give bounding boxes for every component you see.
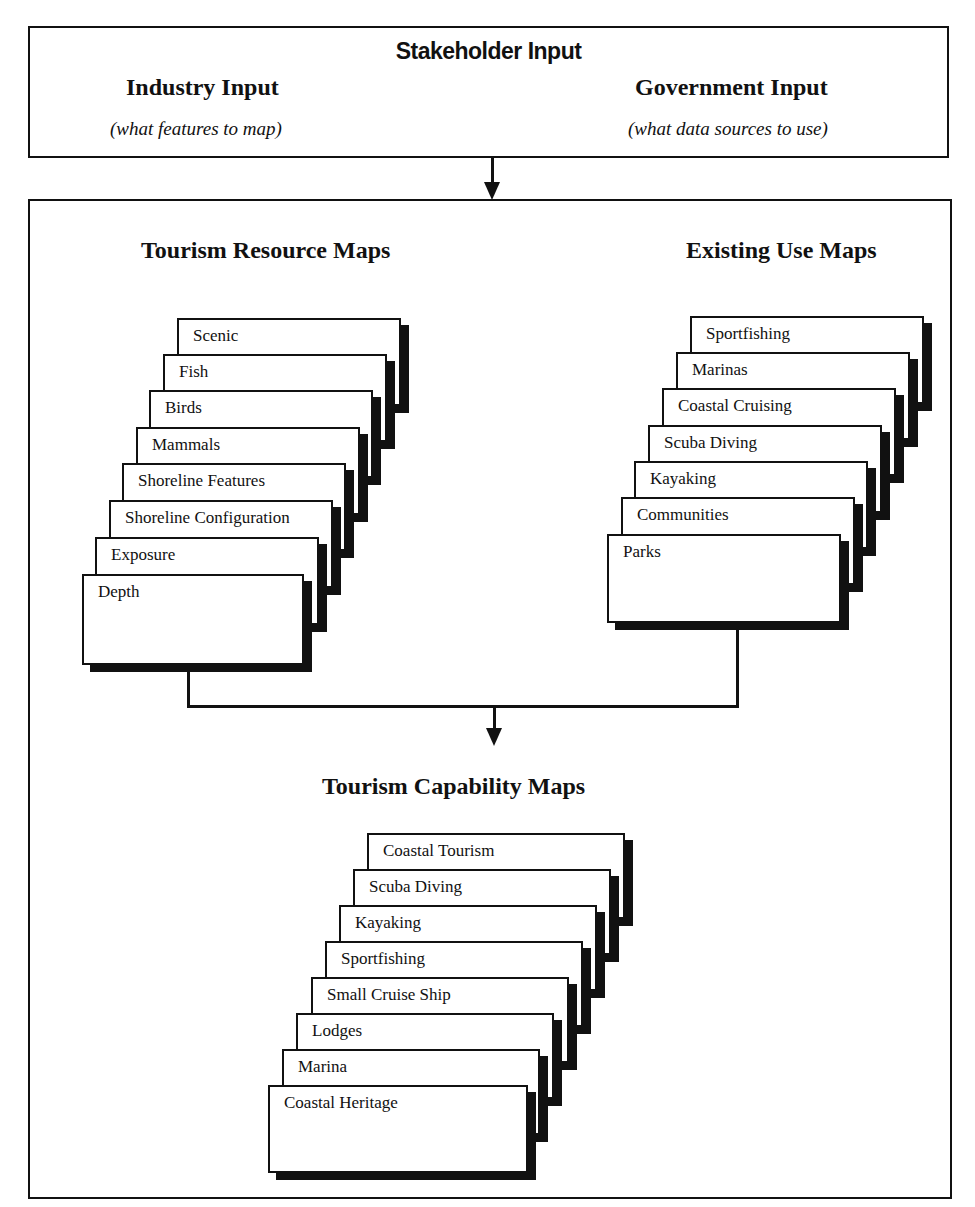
map-layer-label: Fish [179, 362, 208, 382]
industry-input-heading: Industry Input [126, 74, 279, 101]
map-layer-label: Scenic [193, 326, 238, 346]
map-layer-label: Parks [623, 542, 661, 562]
map-layer-card: Coastal Heritage [268, 1085, 528, 1173]
existing-use-maps-heading: Existing Use Maps [686, 237, 877, 264]
map-layer-label: Birds [165, 398, 202, 418]
stakeholder-input-box: Stakeholder Input Industry Input (what f… [28, 26, 949, 158]
map-layer-label: Depth [98, 582, 140, 602]
map-layer-label: Communities [637, 505, 729, 525]
tourism-capability-maps-heading: Tourism Capability Maps [322, 773, 585, 800]
map-layer-label: Marinas [692, 360, 748, 380]
connector-left-vertical [187, 672, 190, 708]
map-layer-card: Depth [82, 574, 304, 665]
connector-line-top [491, 158, 494, 184]
tourism-resource-maps-heading: Tourism Resource Maps [141, 237, 390, 264]
map-layer-label: Coastal Cruising [678, 396, 792, 416]
map-layer-label: Sportfishing [706, 324, 790, 344]
map-layer-label: Scuba Diving [369, 877, 462, 897]
connector-right-vertical [736, 630, 739, 708]
map-layer-label: Shoreline Configuration [125, 508, 290, 528]
map-layer-label: Marina [298, 1057, 347, 1077]
map-layer-label: Coastal Heritage [284, 1093, 398, 1113]
connector-horizontal [187, 705, 739, 708]
map-layer-card: Parks [607, 534, 841, 623]
industry-input-subtitle: (what features to map) [110, 118, 282, 140]
connector-center-vertical [493, 706, 496, 730]
map-layer-label: Kayaking [650, 469, 716, 489]
arrow-down-icon [486, 728, 502, 746]
map-layer-label: Mammals [152, 435, 220, 455]
map-layer-label: Sportfishing [341, 949, 425, 969]
map-layer-label: Scuba Diving [664, 433, 757, 453]
map-layer-label: Small Cruise Ship [327, 985, 451, 1005]
map-layer-label: Exposure [111, 545, 175, 565]
map-layer-label: Kayaking [355, 913, 421, 933]
map-layer-label: Coastal Tourism [383, 841, 494, 861]
stakeholder-input-title: Stakeholder Input [30, 38, 947, 65]
map-layer-label: Shoreline Features [138, 471, 265, 491]
map-layer-label: Lodges [312, 1021, 362, 1041]
arrow-down-icon [484, 182, 500, 200]
government-input-subtitle: (what data sources to use) [628, 118, 828, 140]
government-input-heading: Government Input [635, 74, 828, 101]
